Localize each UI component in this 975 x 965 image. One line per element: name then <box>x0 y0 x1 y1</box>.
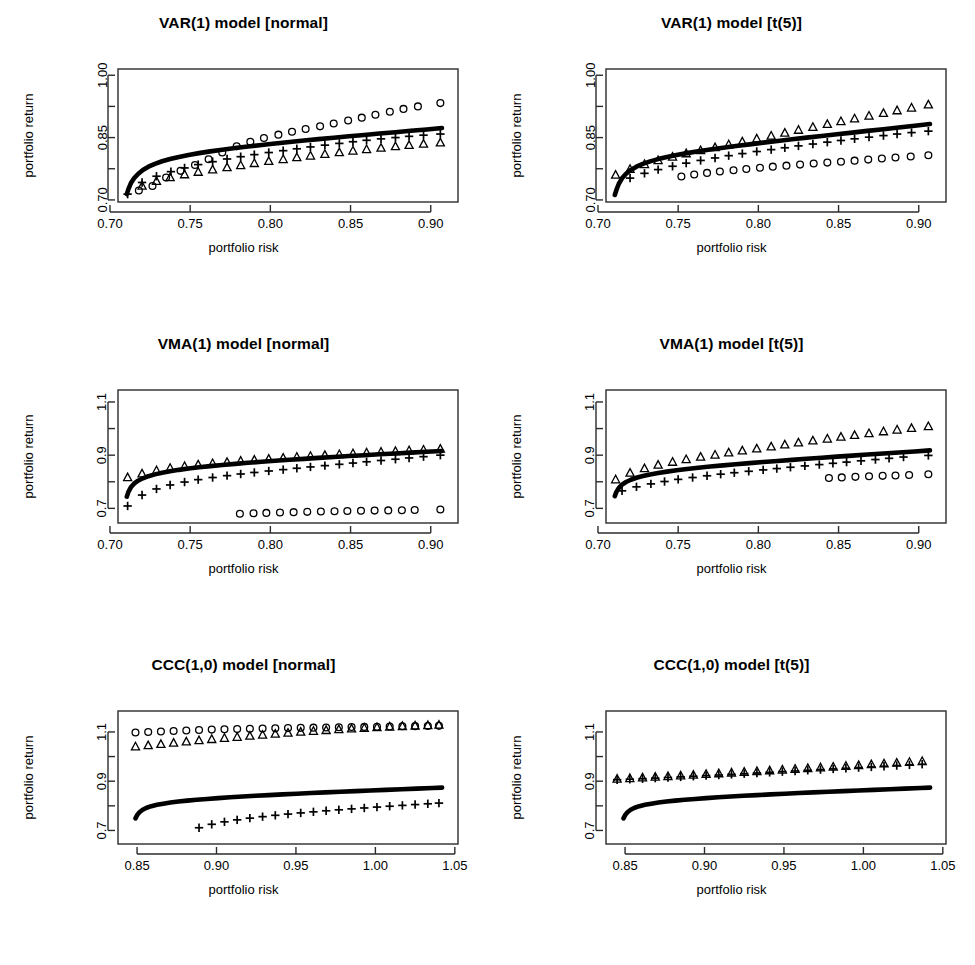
plot-area: 0.70.91.1portfolio return0.850.900.951.0… <box>0 642 487 872</box>
x-tick-label: 0.80 <box>746 216 771 230</box>
x-axis-label: portfolio risk <box>488 561 975 576</box>
x-tick-label: 0.95 <box>771 858 796 872</box>
series-circles <box>678 152 932 180</box>
x-axis-label: portfolio risk <box>488 240 975 255</box>
x-tick-label: 0.80 <box>258 537 283 551</box>
data-series-group <box>613 757 930 818</box>
x-tick-label: 0.75 <box>178 216 203 230</box>
y-axis-label: portfolio return <box>509 736 524 820</box>
x-axis-label: portfolio risk <box>0 882 487 897</box>
y-tick-label: 1.00 <box>95 63 110 88</box>
y-tick-label: 0.85 <box>95 125 110 150</box>
series-plus <box>123 130 444 198</box>
x-tick-label: 0.85 <box>124 858 149 872</box>
data-series-group <box>123 100 444 199</box>
y-tick-label: 1.1 <box>583 723 598 741</box>
x-axis-label: portfolio risk <box>488 882 975 897</box>
x-tick-label: 0.85 <box>612 858 637 872</box>
data-series-group <box>612 100 933 195</box>
plot-area: 0.70.91.1portfolio return0.700.750.800.8… <box>0 321 487 551</box>
series-plus <box>195 799 443 832</box>
y-tick-label: 1.1 <box>95 393 110 411</box>
x-tick-label: 1.05 <box>442 858 467 872</box>
x-tick-label: 0.80 <box>258 216 283 230</box>
y-tick-label: 0.7 <box>583 499 598 517</box>
series-solid-frontier <box>623 788 930 819</box>
y-tick-label: 1.1 <box>583 393 598 411</box>
y-tick-label: 0.9 <box>95 446 110 464</box>
x-tick-label: 0.75 <box>178 537 203 551</box>
plot-area: 0.700.851.00portfolio return0.700.750.80… <box>488 0 975 230</box>
data-series-group <box>131 721 443 832</box>
y-tick-label: 0.85 <box>583 125 598 150</box>
data-series-group <box>123 445 444 517</box>
plot-area: 0.700.851.00portfolio return0.700.750.80… <box>0 0 487 230</box>
x-tick-label: 0.90 <box>906 216 931 230</box>
y-axis-label: portfolio return <box>509 94 524 178</box>
y-axis-label: portfolio return <box>21 415 36 499</box>
x-tick-label: 0.85 <box>338 216 363 230</box>
y-tick-label: 0.9 <box>583 772 598 790</box>
x-tick-label: 0.90 <box>204 858 229 872</box>
x-axis-label: portfolio risk <box>0 561 487 576</box>
x-tick-label: 0.85 <box>826 216 851 230</box>
x-tick-label: 0.70 <box>585 537 610 551</box>
y-tick-label: 0.7 <box>583 821 598 839</box>
x-tick-label: 1.05 <box>930 858 955 872</box>
x-tick-label: 0.70 <box>97 216 122 230</box>
x-tick-label: 0.90 <box>906 537 931 551</box>
x-tick-label: 0.85 <box>338 537 363 551</box>
y-tick-label: 0.9 <box>95 772 110 790</box>
y-tick-label: 1.1 <box>95 723 110 741</box>
x-tick-label: 1.00 <box>363 858 388 872</box>
plot-area: 0.70.91.1portfolio return0.850.900.951.0… <box>488 642 975 872</box>
chart-panel: VAR(1) model [t(5)]portfolio risk0.700.8… <box>488 0 975 300</box>
y-tick-label: 0.7 <box>95 499 110 517</box>
x-tick-label: 0.70 <box>585 216 610 230</box>
x-tick-label: 0.80 <box>746 537 771 551</box>
chart-panel: VMA(1) model [normal]portfolio risk0.70.… <box>0 321 487 621</box>
y-tick-label: 0.7 <box>95 821 110 839</box>
x-tick-label: 0.75 <box>666 537 691 551</box>
x-tick-label: 0.75 <box>666 216 691 230</box>
chart-panel: VMA(1) model [t(5)]portfolio risk0.70.91… <box>488 321 975 621</box>
x-tick-label: 0.90 <box>418 537 443 551</box>
y-tick-label: 0.9 <box>583 446 598 464</box>
x-tick-label: 0.85 <box>826 537 851 551</box>
x-tick-label: 1.00 <box>851 858 876 872</box>
y-tick-label: 0.70 <box>583 187 598 212</box>
y-tick-label: 0.70 <box>95 187 110 212</box>
chart-panel: VAR(1) model [normal]portfolio risk0.700… <box>0 0 487 300</box>
x-tick-label: 0.95 <box>283 858 308 872</box>
plot-area: 0.70.91.1portfolio return0.700.750.800.8… <box>488 321 975 551</box>
y-tick-label: 1.00 <box>583 63 598 88</box>
figure-panel-grid: VAR(1) model [normal]portfolio risk0.700… <box>0 0 975 965</box>
chart-panel: CCC(1,0) model [normal]portfolio risk0.7… <box>0 642 487 942</box>
x-tick-label: 0.90 <box>692 858 717 872</box>
y-axis-label: portfolio return <box>21 94 36 178</box>
y-axis-label: portfolio return <box>21 736 36 820</box>
y-axis-label: portfolio return <box>509 415 524 499</box>
series-solid-frontier <box>615 450 930 496</box>
chart-panel: CCC(1,0) model [t(5)]portfolio risk0.70.… <box>488 642 975 942</box>
x-tick-label: 0.70 <box>97 537 122 551</box>
series-circles <box>826 471 932 482</box>
x-axis-label: portfolio risk <box>0 240 487 255</box>
series-circles <box>236 506 443 517</box>
x-tick-label: 0.90 <box>418 216 443 230</box>
data-series-group <box>612 422 933 496</box>
